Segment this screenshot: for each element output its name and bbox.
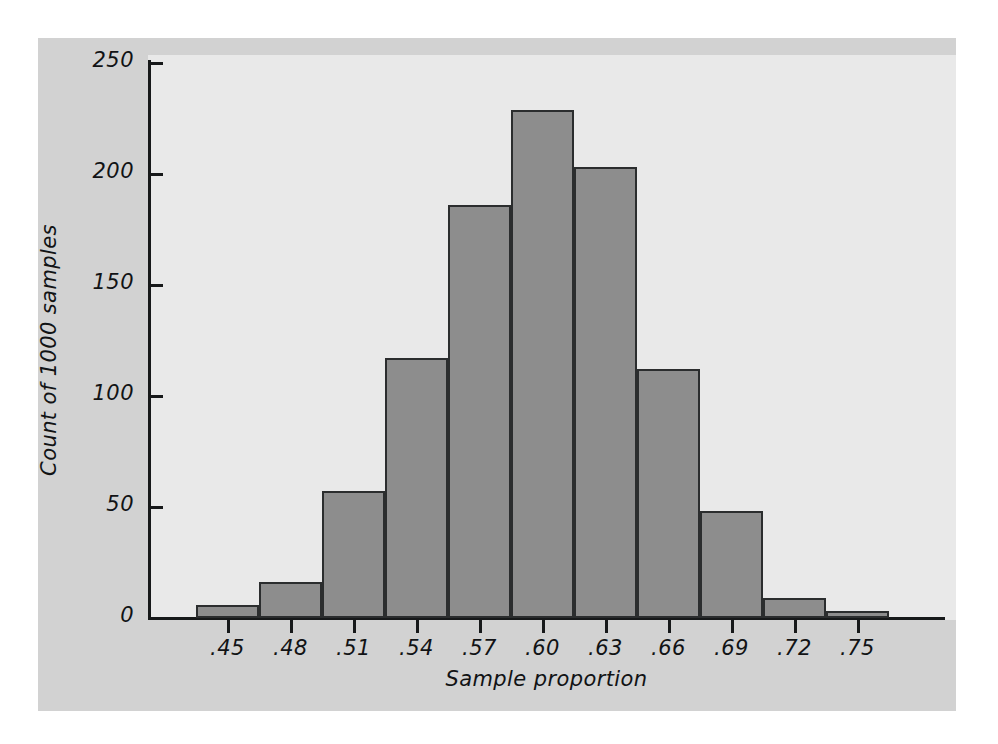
y-axis-tick: [151, 284, 163, 287]
y-axis-tick-labels: 050100150200250: [72, 0, 134, 744]
x-axis-tick-label: .54: [382, 636, 452, 660]
histogram-bar: [448, 205, 511, 618]
x-axis-tick-label: .57: [445, 636, 515, 660]
x-axis-tick: [227, 620, 230, 633]
y-axis-tick: [151, 617, 163, 620]
x-axis-tick-label: .48: [256, 636, 326, 660]
histogram-bar: [322, 491, 385, 618]
histogram-bar: [826, 611, 889, 618]
histogram-bar: [637, 369, 700, 618]
x-axis-tick: [794, 620, 797, 633]
histogram-bar: [511, 110, 574, 618]
x-axis-tick-label: .60: [508, 636, 578, 660]
x-axis-tick: [353, 620, 356, 633]
y-axis-tick-label: 250: [74, 48, 134, 72]
y-axis-tick: [151, 395, 163, 398]
histogram-bar: [763, 598, 826, 618]
x-axis-tick-label: .69: [697, 636, 767, 660]
histogram-figure: 050100150200250 .45.48.51.54.57.60.63.66…: [0, 0, 998, 744]
x-axis-tick-label: .45: [193, 636, 263, 660]
histogram-bar: [574, 167, 637, 618]
x-axis-tick-label: .51: [319, 636, 389, 660]
histogram-bar: [259, 582, 322, 618]
y-axis-tick: [151, 62, 163, 65]
x-axis-tick: [542, 620, 545, 633]
y-axis-tick-label: 50: [74, 492, 134, 516]
histogram-bar: [196, 605, 259, 618]
y-axis-title: Count of 1000 samples: [37, 200, 61, 500]
x-axis-tick-label: .72: [760, 636, 830, 660]
x-axis-tick: [857, 620, 860, 633]
y-axis-tick-label: 0: [74, 603, 134, 627]
y-axis-tick-label: 200: [74, 159, 134, 183]
y-axis-line: [148, 60, 151, 620]
y-axis-tick-label: 150: [74, 270, 134, 294]
x-axis-tick: [605, 620, 608, 633]
x-axis-tick-label: .66: [634, 636, 704, 660]
y-axis-tick: [151, 173, 163, 176]
histogram-bar: [700, 511, 763, 618]
x-axis-title: Sample proportion: [148, 667, 945, 691]
x-axis-tick: [416, 620, 419, 633]
x-axis-tick: [731, 620, 734, 633]
histogram-bar: [385, 358, 448, 618]
x-axis-tick-label: .75: [823, 636, 893, 660]
x-axis-tick: [668, 620, 671, 633]
x-axis-tick: [290, 620, 293, 633]
x-axis-tick-label: .63: [571, 636, 641, 660]
x-axis-tick: [479, 620, 482, 633]
y-axis-tick: [151, 506, 163, 509]
y-axis-tick-label: 100: [74, 381, 134, 405]
